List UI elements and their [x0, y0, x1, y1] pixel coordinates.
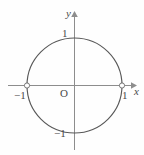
origin-label: O [60, 88, 68, 99]
y-axis-label: y [66, 8, 71, 19]
x-axis-label: x [134, 86, 139, 97]
y-tick-label-one: 1 [62, 28, 68, 39]
point-marker-negative-one [24, 83, 29, 88]
unit-circle-figure: y x 1 −1 1 −1 O [0, 0, 144, 155]
y-tick-label-negative-one: −1 [54, 128, 66, 139]
x-tick-label-negative-one: −1 [14, 90, 26, 101]
y-axis-arrowhead [71, 11, 78, 17]
x-tick-label-one: 1 [122, 90, 128, 101]
point-marker-positive-one [119, 83, 124, 88]
figure-canvas [0, 0, 144, 155]
